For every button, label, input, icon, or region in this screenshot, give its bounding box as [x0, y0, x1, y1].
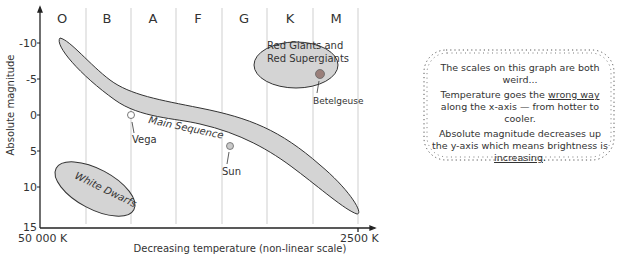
- vega-label: Vega: [132, 134, 157, 145]
- note-line-3-end: .: [543, 152, 546, 163]
- betelgeuse-label: Betelgeuse: [313, 96, 364, 106]
- note-line-3: Absolute magnitude decreases up the y-ax…: [432, 128, 608, 164]
- y-tick-0: 0: [30, 109, 37, 122]
- x-axis-label: Decreasing temperature (non-linear scale…: [134, 243, 347, 254]
- y-axis-label: Absolute magnitude: [5, 55, 16, 156]
- sun-label: Sun: [222, 166, 241, 177]
- note-line-3-start: Absolute magnitude decreases up the y-ax…: [432, 128, 608, 151]
- y-tick-minus-10: -10: [19, 37, 37, 50]
- y-tick-10: 10: [23, 181, 37, 194]
- scales-note: The scales on this graph are both weird.…: [432, 62, 608, 167]
- red-giants-label-line1: Red Giants and: [267, 40, 343, 51]
- spectral-class-o: O: [57, 11, 67, 26]
- spectral-class-m: M: [330, 11, 341, 26]
- note-increasing: increasing: [494, 152, 543, 163]
- spectral-class-b: B: [103, 11, 112, 26]
- spectral-class-f: F: [194, 11, 201, 26]
- y-tick-5: 5: [30, 145, 37, 158]
- spectral-class-a: A: [149, 11, 158, 26]
- spectral-class-k: K: [286, 11, 295, 26]
- sun-star: [227, 143, 234, 150]
- betelgeuse-star: [316, 70, 325, 79]
- spectral-class-g: G: [239, 11, 249, 26]
- note-line-2-end: along the x-axis — from hotter to cooler…: [441, 101, 599, 124]
- note-line-2: Temperature goes the wrong way along the…: [432, 89, 608, 125]
- note-line-2-start: Temperature goes the: [440, 89, 547, 100]
- x-axis-left-label: 50 000 K: [18, 232, 68, 245]
- note-line-1: The scales on this graph are both weird.…: [432, 62, 608, 86]
- red-giants-label-line2: Red Supergiants: [267, 53, 349, 64]
- y-tick-minus-5: -5: [26, 73, 37, 86]
- note-wrong-way: wrong way: [548, 89, 600, 100]
- vega-star: [128, 112, 135, 119]
